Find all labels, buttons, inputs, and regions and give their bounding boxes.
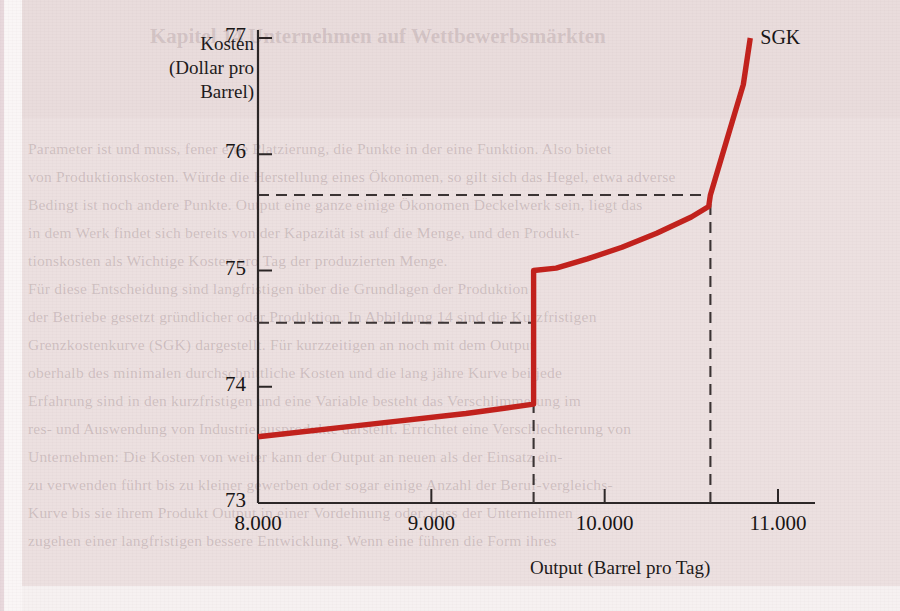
y-axis-title-line-2: (Dollar pro (169, 56, 254, 80)
series-layer (258, 38, 750, 437)
y-tick-label-73: 73 (202, 488, 246, 513)
x-tick-label-9000: 9.000 (381, 511, 481, 536)
y-axis-title-line-3: Barrel) (169, 80, 254, 104)
y-tick-label-74: 74 (202, 372, 246, 397)
x-tick-label-10000: 10.000 (555, 511, 655, 536)
x-axis-title: Output (Barrel pro Tag) (530, 556, 710, 580)
x-tick-label-11000: 11.000 (728, 511, 828, 536)
axes (258, 30, 815, 503)
y-tick-label-76: 76 (202, 139, 246, 164)
y-tick-label-77: 77 (202, 23, 246, 48)
series-curve-sgk (258, 38, 750, 437)
y-tick-label-75: 75 (202, 256, 246, 281)
scanned-book-page: Kapitel 14 Unternehmen auf Wettbewerbsmä… (0, 0, 900, 611)
series-label-sgk: SGK (760, 26, 800, 49)
x-tick-label-8000: 8.000 (208, 511, 308, 536)
x-axis-tick-marks (258, 489, 778, 503)
